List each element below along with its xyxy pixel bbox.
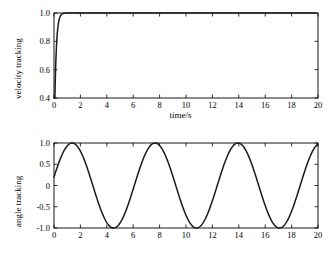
y-tick-label: -0.5 <box>37 202 50 212</box>
x-tick-label: 18 <box>287 230 296 240</box>
x-tick-label: 18 <box>287 100 296 110</box>
angle-y-axis-label: angle tracking <box>13 176 23 227</box>
y-tick-label: 0.6 <box>39 65 50 75</box>
chart-panel-velocity-tracking: 024681012141618200.40.60.81.0 velocity t… <box>0 0 333 131</box>
x-tick-label: 12 <box>208 230 217 240</box>
x-tick-label: 2 <box>78 100 82 110</box>
x-tick-label: 14 <box>235 230 244 240</box>
x-tick-label: 8 <box>157 100 161 110</box>
x-tick-label: 0 <box>52 230 56 240</box>
angle-tracking-plot: 02468101214161820-1.0-0.500.51.0 <box>0 131 333 263</box>
y-tick-label: 1.0 <box>39 138 50 148</box>
x-tick-label: 12 <box>208 100 217 110</box>
y-tick-label: 0.8 <box>39 36 50 46</box>
x-tick-label: 0 <box>52 100 56 110</box>
x-tick-label: 4 <box>105 100 110 110</box>
velocity-x-axis-label: time/s <box>14 110 333 120</box>
y-tick-label: 1.0 <box>39 8 50 18</box>
data-series-line <box>54 143 318 228</box>
x-tick-label: 16 <box>261 230 270 240</box>
x-tick-label: 4 <box>105 230 110 240</box>
x-tick-label: 6 <box>131 100 135 110</box>
y-tick-label: 0.4 <box>39 93 50 103</box>
x-tick-label: 6 <box>131 230 135 240</box>
chart-panel-angle-tracking: 02468101214161820-1.0-0.500.51.0 angle t… <box>0 131 333 263</box>
x-tick-label: 10 <box>182 230 191 240</box>
figure-container: 024681012141618200.40.60.81.0 velocity t… <box>0 0 333 263</box>
x-tick-label: 10 <box>182 100 191 110</box>
y-tick-label: -1.0 <box>37 223 50 233</box>
velocity-y-axis-label: velocity tracking <box>13 38 23 99</box>
plot-frame <box>54 13 318 98</box>
x-tick-label: 16 <box>261 100 270 110</box>
y-tick-label: 0.5 <box>39 159 50 169</box>
x-tick-label: 14 <box>235 100 244 110</box>
x-tick-label: 20 <box>314 100 323 110</box>
x-tick-label: 2 <box>78 230 82 240</box>
y-tick-label: 0 <box>46 181 50 191</box>
data-series-line <box>54 13 315 98</box>
x-tick-label: 8 <box>157 230 161 240</box>
x-tick-label: 20 <box>314 230 323 240</box>
